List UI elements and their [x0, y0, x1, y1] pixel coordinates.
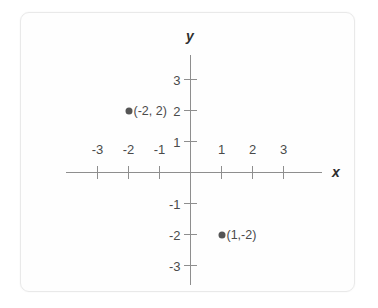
y-axis-tick — [184, 234, 197, 235]
x-axis-tick — [97, 166, 98, 179]
x-axis-tick — [221, 166, 222, 179]
y-axis-tick-label: 2 — [173, 103, 180, 118]
y-axis-tick-label: 1 — [173, 134, 180, 149]
y-axis-line — [190, 55, 191, 285]
plotted-point — [218, 231, 225, 238]
x-axis-tick-label: 3 — [280, 142, 287, 157]
x-axis-tick — [128, 166, 129, 179]
x-axis-tick — [159, 166, 160, 179]
y-axis-tick — [184, 265, 197, 266]
y-axis-label: y — [186, 28, 194, 44]
x-axis-label: x — [332, 164, 340, 180]
y-axis-tick — [184, 141, 197, 142]
y-axis-tick — [184, 79, 197, 80]
x-axis-tick-label: -3 — [92, 142, 104, 157]
y-axis-tick — [184, 203, 197, 204]
y-axis-tick-label: 3 — [173, 72, 180, 87]
x-axis-tick-label: 1 — [218, 142, 225, 157]
y-axis-tick-label: -3 — [169, 258, 181, 273]
x-axis-tick — [283, 166, 284, 179]
screenshot-stage: x y -3-2-1123321-1-2-3 (-2, 2)(1,-2) — [0, 0, 378, 308]
y-axis-tick-label: -1 — [169, 196, 181, 211]
x-axis-tick-label: -2 — [123, 142, 135, 157]
point-coordinate-label: (-2, 2) — [134, 104, 167, 118]
point-coordinate-label: (1,-2) — [227, 228, 257, 242]
plotted-point — [125, 107, 132, 114]
coordinate-plane: x y -3-2-1123321-1-2-3 (-2, 2)(1,-2) — [0, 0, 378, 308]
y-axis-tick — [184, 110, 197, 111]
x-axis-tick-label: -1 — [154, 142, 166, 157]
y-axis-tick-label: -2 — [169, 227, 181, 242]
x-axis-tick-label: 2 — [249, 142, 256, 157]
x-axis-tick — [252, 166, 253, 179]
